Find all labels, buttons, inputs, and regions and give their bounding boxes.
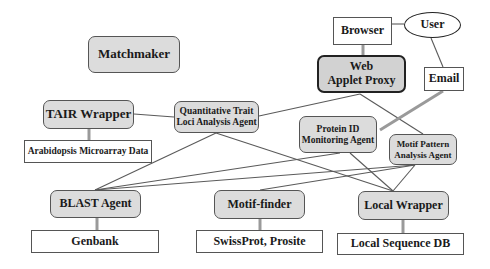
motif-pattern-line1: Motif Pattern bbox=[397, 139, 450, 149]
motif-finder-label: Motif-finder bbox=[228, 198, 292, 212]
tair-wrapper-node: TAIR Wrapper bbox=[43, 100, 134, 129]
edge-motifpattern-motiffinder bbox=[260, 165, 415, 190]
web-applet-proxy-node: Web Applet Proxy bbox=[317, 55, 406, 93]
local-wrapper-label: Local Wrapper bbox=[364, 199, 443, 213]
email-label: Email bbox=[429, 72, 460, 86]
local-wrapper-node: Local Wrapper bbox=[358, 191, 449, 220]
swissprot-node: SwissProt, Prosite bbox=[196, 230, 323, 253]
proxy-label-line1: Web bbox=[350, 60, 373, 74]
proxy-label-line2: Applet Proxy bbox=[327, 74, 395, 88]
edge-motifpattern-localwrapper bbox=[393, 165, 415, 191]
motif-pattern-line2: Analysis Agent bbox=[394, 150, 451, 160]
edge-email-proteinid bbox=[380, 91, 443, 130]
protein-id-line2: Monitoring Agent bbox=[302, 135, 375, 146]
email-node: Email bbox=[424, 67, 464, 91]
qtl-label-line2: Loci Analysis Agent bbox=[176, 117, 256, 128]
browser-node: Browser bbox=[333, 17, 392, 45]
edge-proxy-qtl bbox=[259, 94, 360, 116]
arabidopsis-data-node: Arabidopsis Microarray Data bbox=[24, 140, 152, 163]
arabidopsis-label: Arabidopsis Microarray Data bbox=[28, 146, 149, 157]
edge-tair-qtl bbox=[134, 114, 174, 117]
browser-label: Browser bbox=[341, 24, 384, 38]
user-node: User bbox=[404, 12, 461, 38]
blast-agent-label: BLAST Agent bbox=[59, 197, 131, 211]
blast-agent-node: BLAST Agent bbox=[50, 190, 141, 218]
matchmaker-label: Matchmaker bbox=[98, 47, 170, 62]
qtl-label-line1: Quantitative Trait bbox=[180, 106, 254, 117]
swissprot-label: SwissProt, Prosite bbox=[213, 235, 305, 249]
motif-finder-node: Motif-finder bbox=[214, 190, 305, 219]
local-sequence-db-label: Local Sequence DB bbox=[351, 237, 450, 251]
protein-id-node: Protein ID Monitoring Agent bbox=[299, 116, 377, 153]
user-label: User bbox=[421, 18, 445, 32]
matchmaker-node: Matchmaker bbox=[88, 36, 180, 73]
local-sequence-db-node: Local Sequence DB bbox=[337, 233, 464, 255]
motif-pattern-node: Motif Pattern Analysis Agent bbox=[389, 134, 457, 165]
genbank-label: Genbank bbox=[71, 235, 118, 249]
edge-user-email bbox=[431, 38, 443, 67]
genbank-node: Genbank bbox=[31, 230, 159, 253]
qtl-agent-node: Quantitative Trait Loci Analysis Agent bbox=[174, 101, 259, 133]
protein-id-line1: Protein ID bbox=[317, 124, 360, 135]
tair-wrapper-label: TAIR Wrapper bbox=[46, 107, 132, 122]
edge-motifpattern-blast bbox=[95, 165, 415, 190]
